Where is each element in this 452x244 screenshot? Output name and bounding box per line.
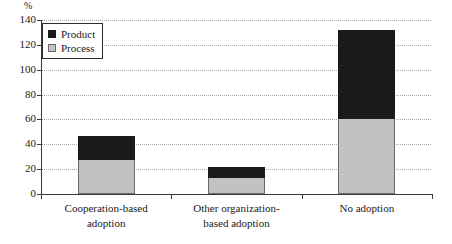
y-tick-60 xyxy=(37,119,41,120)
bar-segment-product-3[interactable] xyxy=(338,30,395,119)
x-axis-category-labels: Cooperation-basedadoptionOther organizat… xyxy=(41,201,432,244)
y-tick-120 xyxy=(37,45,41,46)
y-tick-label-0: 0 xyxy=(0,188,36,199)
y-tick-label-40: 40 xyxy=(0,138,36,149)
y-axis-unit-label: % xyxy=(24,0,32,11)
y-tick-20 xyxy=(37,169,41,170)
chart-legend: ProductProcess xyxy=(42,23,103,59)
y-tick-140 xyxy=(37,20,41,21)
y-tick-40 xyxy=(37,144,41,145)
category-label-1: Cooperation-basedadoption xyxy=(32,201,180,231)
legend-label: Process xyxy=(61,42,95,54)
black-square-icon xyxy=(48,30,56,38)
gray-square-icon xyxy=(48,44,56,52)
category-label-line: No adoption xyxy=(293,201,441,216)
bar-segment-product-2[interactable] xyxy=(208,167,265,178)
legend-item-product[interactable]: Product xyxy=(48,27,95,41)
x-tick-3 xyxy=(432,194,433,199)
category-label-line: based adoption xyxy=(162,216,310,231)
y-tick-100 xyxy=(37,70,41,71)
bar-segment-process-1[interactable] xyxy=(78,159,135,194)
x-tick-0 xyxy=(41,194,42,199)
y-axis-tick-labels: 020406080100120140 xyxy=(0,20,36,194)
bar-segment-process-3[interactable] xyxy=(338,118,395,194)
y-tick-label-80: 80 xyxy=(0,89,36,100)
y-tick-label-100: 100 xyxy=(0,64,36,75)
legend-label: Product xyxy=(61,28,95,40)
bar-segment-product-1[interactable] xyxy=(78,136,135,161)
y-tick-label-140: 140 xyxy=(0,14,36,25)
stacked-bar-chart: % 020406080100120140 Cooperation-basedad… xyxy=(0,0,452,244)
x-axis-line xyxy=(41,194,432,195)
y-tick-label-20: 20 xyxy=(0,163,36,174)
y-tick-80 xyxy=(37,95,41,96)
category-label-2: Other organization-based adoption xyxy=(162,201,310,231)
x-tick-2 xyxy=(302,194,303,199)
y-tick-label-120: 120 xyxy=(0,39,36,50)
legend-item-process[interactable]: Process xyxy=(48,41,95,55)
bar-group-2[interactable] xyxy=(208,20,265,194)
category-label-line: Cooperation-based xyxy=(32,201,180,216)
y-tick-label-60: 60 xyxy=(0,113,36,124)
category-label-line: Other organization- xyxy=(162,201,310,216)
bar-segment-process-2[interactable] xyxy=(208,177,265,194)
category-label-3: No adoption xyxy=(293,201,441,216)
category-label-line: adoption xyxy=(32,216,180,231)
x-tick-1 xyxy=(171,194,172,199)
bar-group-3[interactable] xyxy=(338,20,395,194)
